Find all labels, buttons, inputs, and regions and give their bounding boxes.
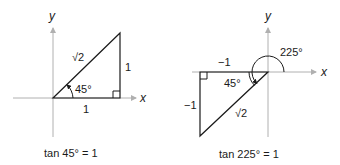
left-hypotenuse-label: √2 (72, 51, 84, 63)
left-adjacent-label: 1 (83, 103, 89, 115)
right-reference-angle-label: 45° (224, 77, 241, 89)
right-adjacent-label: −1 (218, 56, 231, 68)
right-rotation-angle-label: 225° (280, 46, 303, 58)
right-x-label: x (320, 65, 328, 79)
right-diagram: y x 225° −1 45° −1 √2 tan 225° = 1 (184, 9, 328, 160)
right-y-label: y (264, 9, 272, 23)
trig-diagram-canvas: y x √2 1 45° 1 tan 45° = 1 y x 225° −1 4… (0, 0, 340, 165)
right-right-angle-mark (200, 72, 207, 79)
right-hypotenuse-label: √2 (235, 107, 247, 119)
left-angle-arc (67, 85, 73, 98)
left-diagram: y x √2 1 45° 1 tan 45° = 1 (13, 9, 147, 159)
right-caption: tan 225° = 1 (219, 148, 279, 160)
left-opposite-label: 1 (125, 61, 131, 73)
left-x-label: x (139, 91, 147, 105)
left-y-label: y (48, 9, 56, 23)
left-right-angle-mark (113, 91, 120, 98)
left-caption: tan 45° = 1 (44, 147, 98, 159)
left-angle-label: 45° (75, 83, 92, 95)
right-opposite-label: −1 (184, 99, 197, 111)
